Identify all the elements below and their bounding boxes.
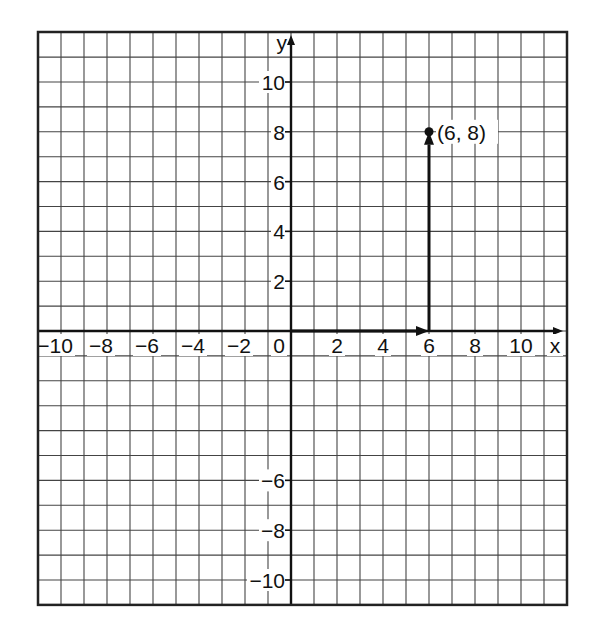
point-label: (6, 8) [437,121,486,144]
x-tick-label: −6 [135,334,159,357]
y-tick-label: −6 [261,469,285,492]
y-tick-label: 6 [273,171,285,194]
x-tick-label: −10 [37,334,73,357]
tick-labels: −10−8−6−4−20246810108642−6−8−10 [35,34,563,592]
x-tick-label: 0 [273,334,285,357]
coordinate-plane: −10−8−6−4−20246810108642−6−8−10 x y (6, … [0,0,597,640]
x-tick-label: 4 [377,334,389,357]
y-tick-label: −10 [249,569,285,592]
y-axis-arrow-icon [287,35,295,45]
y-tick-label: 4 [273,220,285,243]
x-tick-label: −4 [181,334,205,357]
y-tick-label: 8 [273,121,285,144]
y-tick-label: −8 [261,519,285,542]
x-tick-label: 2 [331,334,343,357]
grid-border [38,32,567,605]
grid-lines [38,32,567,605]
y-tick-label: 2 [273,270,285,293]
x-axis-label: x [550,334,561,357]
x-tick-label: −2 [227,334,251,357]
vectors [291,132,434,336]
y-axis-label: y [277,31,288,54]
x-tick-label: 10 [509,334,532,357]
x-tick-label: −8 [89,334,113,357]
y-tick-label: 10 [262,71,285,94]
x-tick-label: 6 [423,334,435,357]
point-marker [425,127,434,136]
x-tick-label: 8 [469,334,481,357]
